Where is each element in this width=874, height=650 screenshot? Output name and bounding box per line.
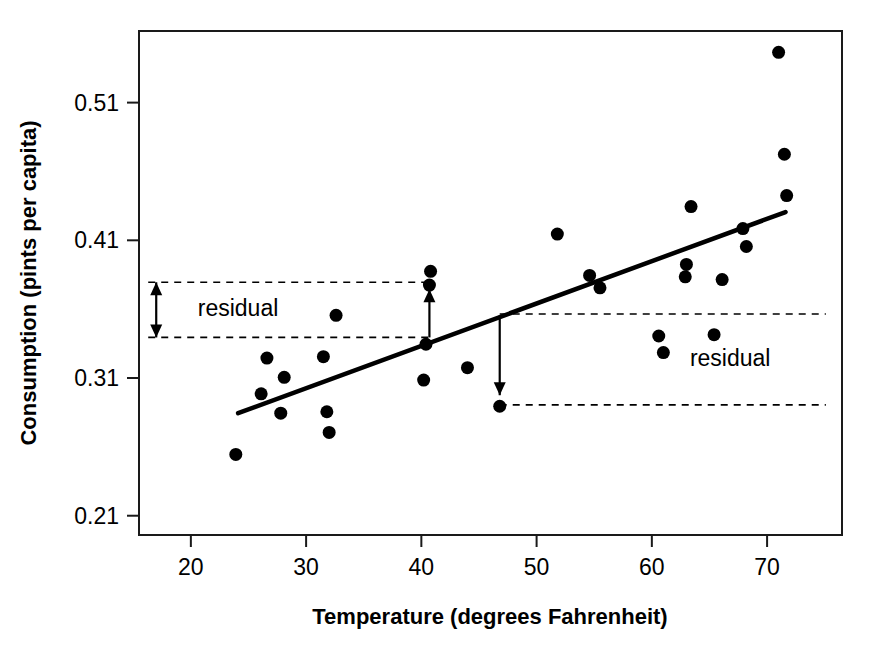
residual-span-head-down <box>150 324 162 337</box>
data-point <box>419 338 432 351</box>
y-axis-title: Consumption (pints per capita) <box>16 120 41 445</box>
x-tick-label: 20 <box>178 554 204 580</box>
data-point <box>424 265 437 278</box>
data-point <box>493 400 506 413</box>
x-tick-label: 40 <box>409 554 435 580</box>
data-point <box>736 222 749 235</box>
x-tick-label: 60 <box>639 554 665 580</box>
data-point <box>330 309 343 322</box>
data-point <box>708 328 721 341</box>
data-point <box>685 200 698 213</box>
data-point <box>780 189 793 202</box>
scatter-plot-figure: 203040506070 0.210.310.410.51 residualre… <box>0 0 874 650</box>
residual-arrow-head <box>494 382 506 395</box>
data-point <box>417 374 430 387</box>
data-point <box>679 270 692 283</box>
data-point <box>740 240 753 253</box>
data-point <box>317 350 330 363</box>
regression-line <box>238 212 785 413</box>
y-tick-label: 0.31 <box>74 365 119 391</box>
least-squares-line <box>238 212 785 413</box>
data-point <box>593 281 606 294</box>
data-point <box>229 448 242 461</box>
x-axis-title: Temperature (degrees Fahrenheit) <box>312 604 667 629</box>
data-point <box>778 148 791 161</box>
x-tick-label: 50 <box>524 554 550 580</box>
data-point <box>278 371 291 384</box>
y-axis-ticks: 0.210.310.410.51 <box>74 90 139 529</box>
data-point <box>320 405 333 418</box>
x-tick-label: 70 <box>754 554 780 580</box>
data-point <box>680 258 693 271</box>
data-point <box>274 407 287 420</box>
data-point <box>583 269 596 282</box>
x-axis-ticks: 203040506070 <box>178 535 780 580</box>
data-point <box>255 387 268 400</box>
data-point <box>260 352 273 365</box>
data-point <box>716 273 729 286</box>
data-point <box>772 46 785 59</box>
y-tick-label: 0.21 <box>74 503 119 529</box>
data-point <box>551 228 564 241</box>
y-tick-label: 0.41 <box>74 227 119 253</box>
data-point <box>657 346 670 359</box>
data-point <box>652 330 665 343</box>
x-tick-label: 30 <box>293 554 319 580</box>
y-tick-label: 0.51 <box>74 90 119 116</box>
residual-span-head-up <box>150 282 162 295</box>
residual-annotations: residualresidual <box>148 282 826 405</box>
data-points <box>229 46 793 461</box>
residual-label: residual <box>690 345 771 371</box>
residual-label: residual <box>198 295 279 321</box>
chart-canvas: 203040506070 0.210.310.410.51 residualre… <box>0 0 874 650</box>
data-point <box>423 279 436 292</box>
data-point <box>323 426 336 439</box>
data-point <box>461 361 474 374</box>
